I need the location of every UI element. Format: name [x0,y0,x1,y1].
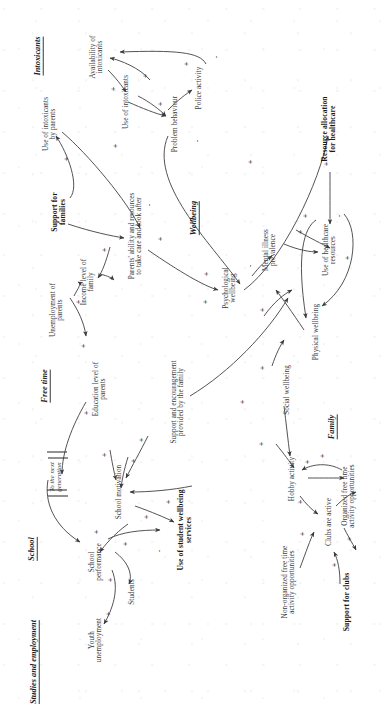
link-polarity-sign: + [318,454,327,459]
node-parents_ability: Parents' ability and resources to take c… [129,193,144,280]
link-polarity-sign: + [201,300,210,305]
node-youth_unemployment: Youth unemployment [89,618,104,662]
link-polarity-sign: - [144,204,153,207]
link-polarity-sign: + [182,62,191,67]
link-polarity-sign: + [345,537,354,542]
node-mental_illness_prevalence: Mental illness prevalence [263,229,278,271]
node-use_healthcare_resources: Use of healthcare resources [323,224,338,276]
link-polarity-sign: + [104,612,113,617]
link-polarity-sign: + [303,460,312,465]
node-school_motivation: School motivation [116,465,123,520]
link-polarity-sign: - [106,278,115,281]
node-use_student_wellbeing_services: Use of student wellbeing services [177,489,192,570]
node-support_encouragement_family: Support and encouragement provided by th… [171,360,186,443]
delay-label: To the next generation [48,462,62,492]
node-use_intoxicants_parents: Use of intoxicants by parents [43,97,58,151]
section-label-intoxicants: Intoxicants [33,36,44,75]
link-polarity-sign: + [258,366,267,371]
link-polarity-sign: + [109,87,118,92]
link-polarity-sign: + [164,500,173,505]
node-support_for_clubs: Support for clubs [343,573,351,632]
link-polarity-sign: - [264,258,273,261]
link-polarity-sign: + [258,308,267,313]
link-polarity-sign: + [156,102,165,107]
node-school_performance: School performance [89,543,104,580]
node-physical_wellbeing: Physical wellbeing [313,304,320,360]
link-polarity-sign: + [137,438,146,443]
node-hobby_activity: Hobby activity [289,457,296,501]
link-polarity-sign: + [301,214,310,219]
link-polarity-sign: + [238,400,247,405]
link-polarity-sign: + [142,515,151,520]
link-polarity-sign: + [106,578,115,583]
link-polarity-sign: + [121,542,130,547]
section-label-family: Family [327,415,338,440]
link-polarity-sign: + [296,500,305,505]
link-polarity-sign: + [74,300,83,305]
link-polarity-sign: + [100,248,109,253]
node-education_level_parents: Education level of parents [93,362,108,417]
section-label-school: School [27,537,38,561]
section-label-freetime: Free time [40,369,51,402]
node-social_wellbeing: Social wellbeing [284,365,291,415]
section-label-studies: Studies and employment [29,620,40,704]
node-non_organized_opportunities: Non-organized free time activity opportu… [282,546,297,619]
link-polarity-sign: + [82,411,91,416]
link-polarity-sign: + [129,459,138,464]
node-resource_allocation_healthcare: Resource allocation for healthcare [321,96,336,161]
node-problem_behaviour: Problem behaviour [172,96,179,153]
node-clubs_are_active: Clubs are active [326,498,333,546]
link-polarity-sign: + [298,532,307,537]
node-unemployment_parents: Unemployment of parents [50,283,65,337]
link-polarity-sign: + [141,74,150,79]
link-polarity-sign: - [154,550,163,553]
node-police_activity: Police activity [196,67,203,110]
node-income_level_family: Income level of family [81,259,96,306]
node-organized_opportunities: Organized free time activity opportuniti… [342,464,357,527]
link-polarity-sign: + [62,157,71,162]
link-polarity-sign: + [92,530,101,535]
link-polarity-sign: + [100,453,109,458]
node-availability_intoxicants: Availability of intoxicants [90,35,105,78]
section-label-wellbeing: Wellbeing [189,201,200,235]
link-polarity-sign: - [245,265,254,268]
link-polarity-sign: - [192,140,201,143]
link-polarity-sign: + [156,237,165,242]
link-polarity-sign: - [334,215,343,218]
link-polarity-sign: + [322,162,331,167]
node-use_intoxicants: Use of intoxicants [123,75,130,129]
link-polarity-sign: + [296,230,305,235]
link-polarity-sign: + [330,563,339,568]
link-polarity-sign: + [202,272,211,277]
node-students: Students [129,579,136,605]
node-psychological_wellbeing: Psychological wellbeing [223,267,238,309]
link-polarity-sign: + [111,144,120,149]
link-polarity-sign: + [246,160,255,165]
link-polarity-sign: + [257,442,266,447]
link-polarity-sign: + [343,256,352,261]
node-support_for_families: Support for families [51,192,66,231]
link-polarity-sign: + [79,344,88,349]
link-polarity-sign: - [211,56,220,59]
